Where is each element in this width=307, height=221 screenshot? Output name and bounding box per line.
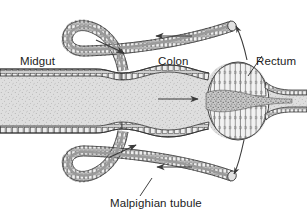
label-colon: Colon <box>158 56 189 68</box>
arrow-rectum-to-upper-tubule <box>236 26 247 60</box>
gut-diagram-svg <box>0 0 307 221</box>
label-malpighian-tubule: Malpighian tubule <box>110 198 202 210</box>
label-rectum: Rectum <box>256 56 296 68</box>
gut-tract <box>0 62 307 140</box>
malpighian-tubule-upper <box>63 20 238 71</box>
malpighian-tubule-lower <box>63 131 238 182</box>
leader-malpighian <box>140 178 152 196</box>
label-midgut: Midgut <box>20 56 55 68</box>
arrow-rectum-to-lower-tubule <box>234 140 244 174</box>
figure-root: Midgut Colon Rectum Malpighian tubule <box>0 0 307 221</box>
